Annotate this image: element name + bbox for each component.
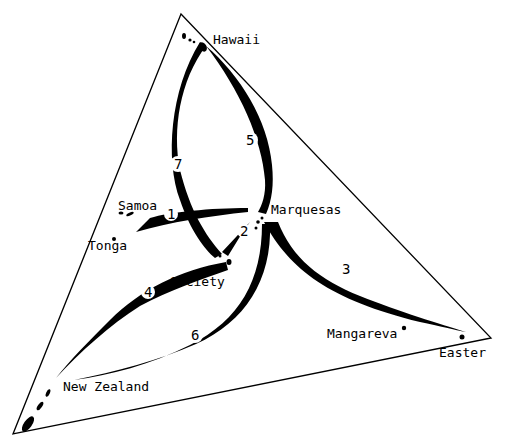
route-7-arrow	[172, 42, 222, 258]
route-5-arrow	[206, 46, 273, 214]
island-label-marquesas: Marquesas	[271, 202, 341, 217]
polynesian-triangle	[13, 14, 491, 434]
island-label-hawaii: Hawaii	[213, 32, 260, 47]
polynesia-diagram: Hawaii Samoa Tonga Marquesas Society Man…	[0, 0, 506, 446]
island-label-society: Society	[170, 274, 225, 289]
route-number-2: 2	[240, 223, 248, 239]
route-number-3: 3	[342, 261, 350, 277]
island-label-new-zealand: New Zealand	[63, 379, 149, 394]
island-label-easter: Easter	[439, 345, 486, 360]
route-number-5: 5	[246, 132, 254, 148]
route-3-arrow	[264, 222, 466, 332]
route-number-4: 4	[144, 284, 152, 300]
island-label-mangareva: Mangareva	[327, 326, 397, 341]
route-number-1: 1	[167, 206, 175, 222]
route-number-6: 6	[191, 327, 199, 343]
route-number-7: 7	[174, 156, 182, 172]
island-label-tonga: Tonga	[88, 238, 127, 253]
island-label-samoa: Samoa	[118, 198, 157, 213]
